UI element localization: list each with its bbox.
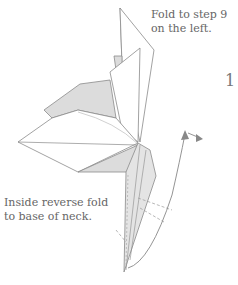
annotation-bottom-line1: Inside reverse fold bbox=[4, 196, 108, 210]
origami-diagram: Fold to step 9 on the left. 1 Inside rev… bbox=[0, 0, 238, 285]
annotation-top-line2: on the left. bbox=[151, 22, 227, 36]
annotation-top: Fold to step 9 on the left. bbox=[151, 8, 227, 36]
annotation-bottom-line2: to base of neck. bbox=[4, 210, 108, 224]
arrow-head-icon bbox=[181, 130, 189, 140]
step-number: 1 bbox=[225, 74, 235, 88]
annotation-bottom: Inside reverse fold to base of neck. bbox=[4, 196, 108, 224]
annotation-top-line1: Fold to step 9 bbox=[151, 8, 227, 22]
crane-fold-illustration bbox=[0, 0, 238, 285]
arrow-head-2-icon bbox=[196, 134, 203, 142]
